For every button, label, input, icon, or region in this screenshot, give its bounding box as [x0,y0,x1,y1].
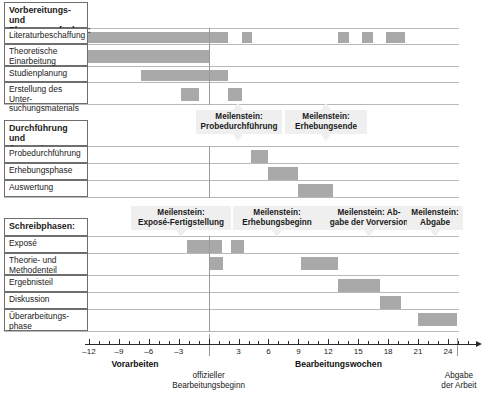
task-label-diskussion: Diskussion [4,292,88,309]
axis-tick [438,341,439,345]
axis-tick [338,341,339,345]
task-label-erstellung-untersuchungsmaterial: Erstellung des Unter- suchungsmaterials [4,82,88,104]
milestone-expose-fertigstellung-pointer [176,230,186,237]
axis-tick-label: –6 [137,347,161,356]
axis-tick-label: –12 [77,347,101,356]
axis-tick [448,339,449,344]
axis-tick [189,341,190,345]
axis-tick [348,341,349,345]
axis-tick [149,339,150,344]
row-separator [4,197,459,198]
task-label-literaturbeschaffung: Literaturbeschaffung [4,28,88,44]
axis-tick-label: 15 [346,347,370,356]
reference-line-start [209,236,210,332]
axis-line [85,344,476,345]
axis-tick-label: 6 [256,347,280,356]
axis-zero-divider [209,334,210,356]
gantt-bar [231,240,244,253]
axis-tick [129,341,130,345]
group-header-durchfuehrung: Durchführung und Auswertung: [4,120,88,146]
gantt-bar [181,88,199,101]
axis-note-submission: Abgabe der Arbeit [429,371,486,390]
axis-tick-label: 18 [376,347,400,356]
axis-tick [318,341,319,345]
gantt-bar [228,88,242,101]
gantt-bar [209,32,228,43]
axis-tick [428,341,429,345]
axis-tick [308,341,309,345]
row-separator [4,331,459,332]
task-label-probedurchfuehrung: Probedurchführung [4,146,88,163]
axis-tick [458,341,459,345]
task-label-theorie-methodenteil: Theorie- und Methodenteil [4,253,88,275]
axis-tick-label: 21 [406,347,430,356]
gantt-bar [362,32,373,43]
gantt-bar [338,32,349,43]
milestone-abgabe: Meilenstein: Abgabe [407,206,463,230]
axis-tick [268,339,269,344]
axis-tick-label: 12 [316,347,340,356]
axis-tick [159,341,160,345]
axis-note-official-start: offizieller Bearbeitungsbeginn [151,371,267,390]
axis-tick-label: 3 [227,347,251,356]
axis-tick [378,341,379,345]
gantt-bar [84,32,209,43]
axis-tick [109,341,110,345]
gantt-bar [301,257,338,270]
milestone-pointer-up-1 [233,103,243,110]
gantt-bar [338,279,380,292]
axis-tick [358,339,359,344]
axis-tick [468,341,469,345]
gantt-bar [251,150,269,163]
gantt-bar [418,313,457,326]
axis-tick [298,339,299,344]
axis-caption-bearbeitungswochen: Bearbeitungswochen [268,359,408,369]
axis-tick [199,341,200,345]
axis-tick [219,341,220,345]
axis-tick [209,339,210,344]
gantt-bar [209,257,223,270]
axis-tick-label: –9 [107,347,131,356]
milestone-probedurchfuehrung: Meilenstein: Probedurchführung [196,110,282,134]
task-label-ergebnisteil: Ergebnisteil [4,275,88,292]
gantt-bar [268,167,298,180]
reference-line-start [209,146,210,198]
axis-tick [328,339,329,344]
axis-tick [249,341,250,345]
gantt-bar [386,32,405,43]
milestone-erhebungsbeginn: Meilenstein: Erhebungsbeginn [233,206,321,230]
milestone-probedurchfuehrung-pointer [233,134,243,141]
axis-tick [388,339,389,344]
task-label-theoretische-einarbeitung: Theoretische Einarbeitung [4,44,88,66]
milestone-abgabe-vorversion-pointer [364,230,374,237]
axis-arrow-icon [476,341,482,347]
axis-tick [278,341,279,345]
axis-caption-vorarbeiten: Vorarbeiten [75,359,195,369]
axis-tick [408,341,409,345]
axis-tick [89,339,90,344]
task-label-erhebungsphase: Erhebungsphase [4,163,88,180]
milestone-pointer-up-2 [321,103,331,110]
gantt-bar [242,32,253,43]
milestone-erhebungsende-pointer [321,134,331,141]
axis-tick-label: 24 [436,347,460,356]
axis-tick [229,341,230,345]
axis-tick [99,341,100,345]
gantt-bar [209,240,222,253]
axis-tick [368,341,369,345]
axis-tick [169,341,170,345]
reference-line-start [209,28,210,105]
group-header-vorbereitung: Vorbereitungs- und Planungsaufgaben: [4,2,88,28]
axis-tick [288,341,289,345]
milestone-erhebungsende: Meilenstein: Erhebungsende [285,110,367,134]
milestone-abgabe-pointer [430,230,440,237]
group-header-schreibphasen: Schreibphasen: [4,218,88,236]
task-label-expose: Exposé [4,236,88,253]
axis-tick-label: –3 [167,347,191,356]
milestone-abgabe-vorversion: Meilenstein: Ab- gabe der Vorversion [321,206,417,230]
gantt-bar [187,240,209,253]
axis-tick [418,339,419,344]
axis-tick-label: 9 [286,347,310,356]
task-label-auswertung: Auswertung [4,180,88,197]
task-label-ueberarbeitungsphase: Überarbeitungs- phase [4,309,88,331]
